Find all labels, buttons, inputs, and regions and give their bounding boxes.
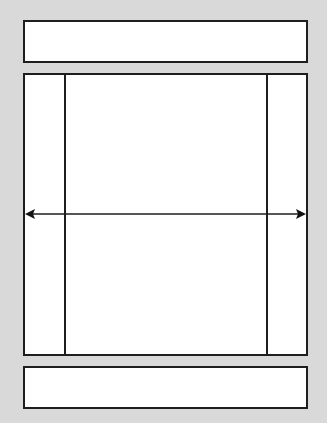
header-box (23, 20, 308, 63)
footer-box (23, 366, 308, 409)
width-double-arrow-icon (23, 207, 308, 221)
